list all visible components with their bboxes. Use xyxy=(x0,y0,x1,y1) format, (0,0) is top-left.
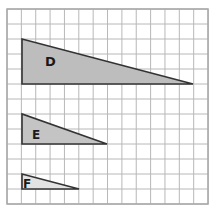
triangle-label: D xyxy=(45,54,56,69)
grid-lines xyxy=(7,9,208,204)
triangle-label: F xyxy=(23,177,31,191)
similar-triangles-grid: DEF xyxy=(0,0,223,213)
triangle-label: E xyxy=(32,128,40,142)
